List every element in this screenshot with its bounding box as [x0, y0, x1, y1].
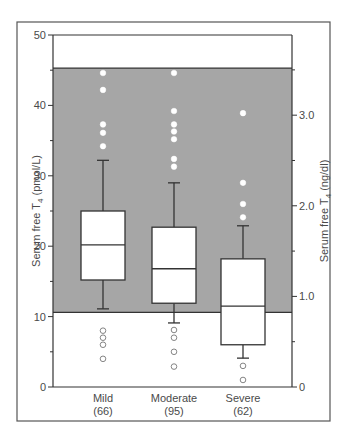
left-tick-label: 10	[34, 311, 46, 323]
outlier-point	[100, 335, 106, 341]
outlier-point	[240, 180, 246, 186]
box-plot-chart: 01020304050 01.02.03.0 Mild(66)Moderate(…	[0, 0, 346, 435]
left-tick-label: 0	[40, 381, 46, 393]
category-count: (95)	[164, 405, 184, 417]
left-tick-label: 50	[34, 29, 46, 41]
right-tick-label: 2.0	[299, 200, 314, 212]
outlier-point	[100, 342, 106, 348]
iqr-box	[221, 259, 265, 345]
outlier-point	[100, 122, 106, 128]
outlier-point	[171, 335, 177, 341]
category-label: Severe	[226, 392, 261, 404]
iqr-box	[152, 227, 196, 303]
category-count: (62)	[233, 405, 253, 417]
outlier-point	[171, 164, 177, 170]
outlier-point	[100, 87, 106, 93]
outlier-point	[171, 70, 177, 76]
right-tick-label: 0	[299, 381, 305, 393]
outlier-point	[100, 143, 106, 149]
outlier-point	[240, 215, 246, 221]
right-tick-label: 3.0	[299, 109, 314, 121]
right-axis-title: Serum free T4 (ng/dl)	[318, 160, 333, 263]
outlier-point	[240, 363, 246, 369]
category-label: Mild	[93, 392, 113, 404]
outlier-point	[171, 122, 177, 128]
outlier-point	[171, 129, 177, 135]
outlier-point	[240, 201, 246, 207]
outlier-point	[100, 356, 106, 362]
category-label: Moderate	[151, 392, 197, 404]
outlier-point	[100, 328, 106, 334]
outlier-point	[171, 364, 177, 370]
outlier-point	[100, 130, 106, 136]
outlier-point	[171, 108, 177, 114]
category-count: (66)	[93, 405, 113, 417]
left-tick-label: 40	[34, 99, 46, 111]
outlier-point	[171, 156, 177, 162]
iqr-box	[81, 211, 125, 280]
outlier-point	[240, 110, 246, 116]
outlier-point	[171, 327, 177, 333]
outlier-point	[100, 70, 106, 76]
outlier-point	[171, 136, 177, 142]
right-tick-label: 1.0	[299, 290, 314, 302]
outlier-point	[171, 349, 177, 355]
outlier-point	[240, 377, 246, 383]
